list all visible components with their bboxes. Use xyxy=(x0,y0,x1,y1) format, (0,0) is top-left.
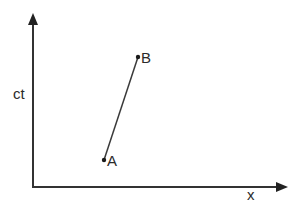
point-a-label: A xyxy=(107,153,117,168)
spacetime-diagram xyxy=(0,0,304,218)
x-axis-label: x xyxy=(247,187,255,202)
point-b-dot xyxy=(136,55,140,59)
ct-axis-arrowhead-icon xyxy=(28,13,38,25)
x-axis-arrowhead-icon xyxy=(276,182,288,192)
ct-axis-label: ct xyxy=(13,86,25,101)
point-b-label: B xyxy=(141,50,151,65)
segment-ab xyxy=(104,57,138,160)
point-a-dot xyxy=(102,158,106,162)
